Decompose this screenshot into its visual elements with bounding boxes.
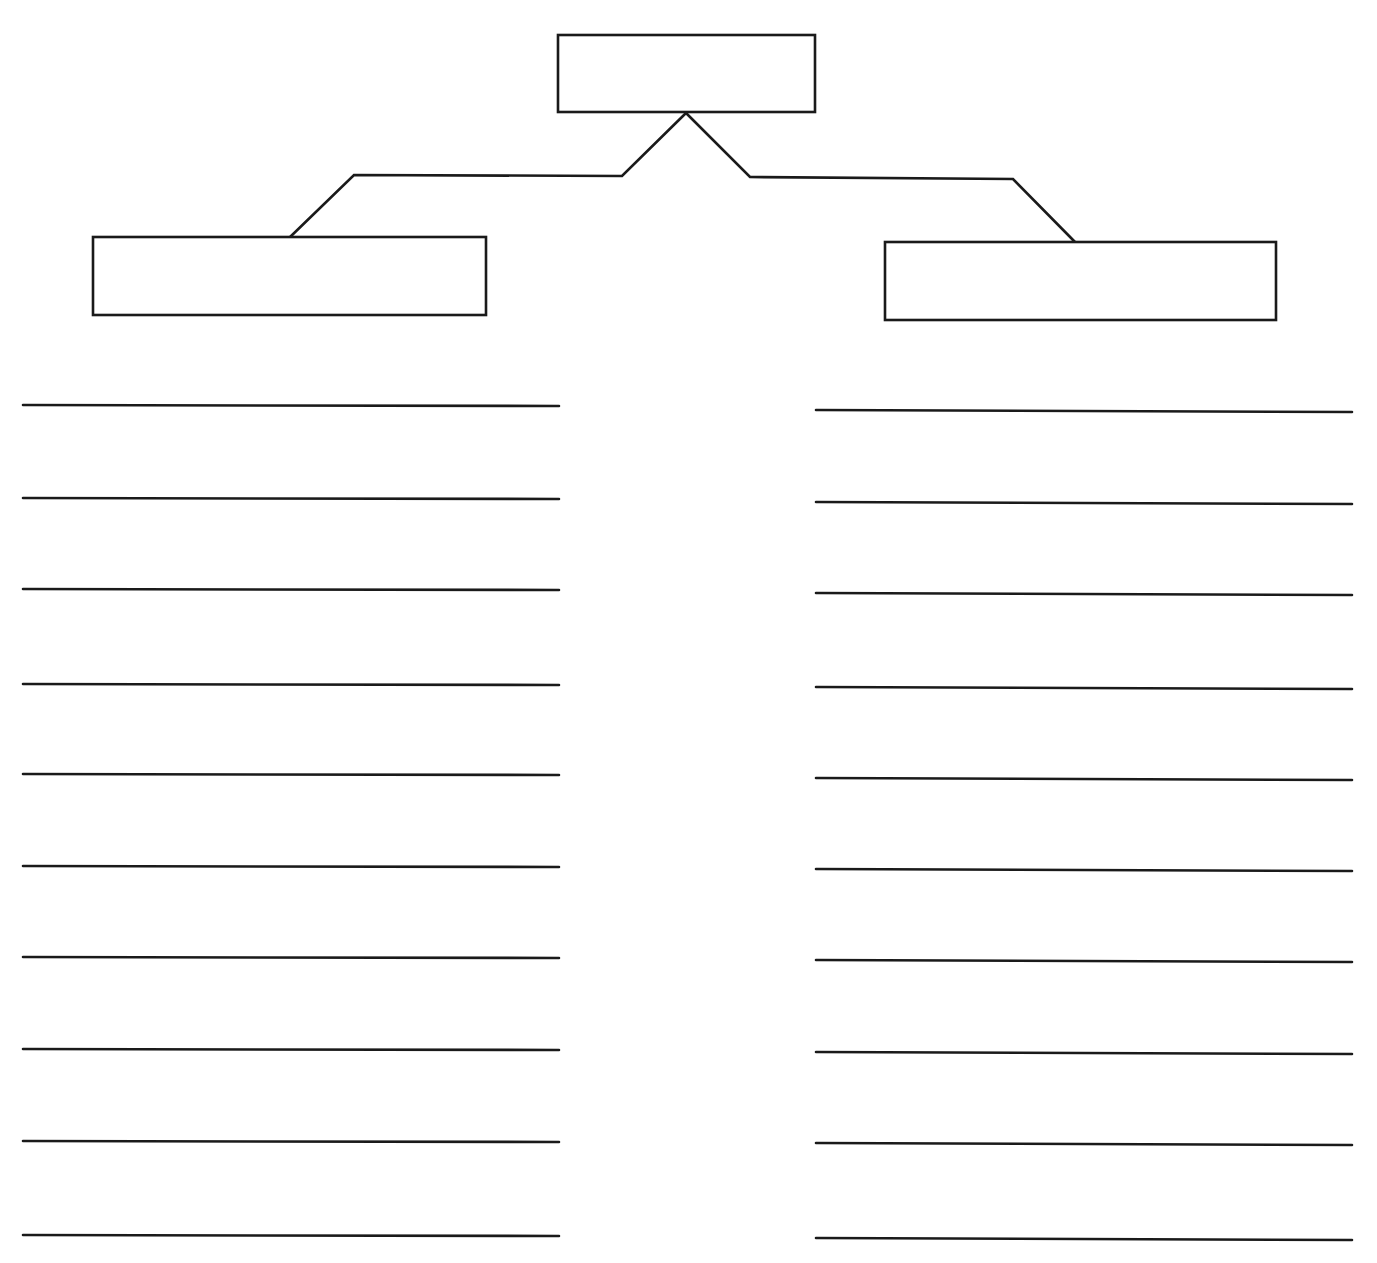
left-box-frame bbox=[93, 237, 486, 315]
left-connector bbox=[288, 113, 686, 239]
right-writing-line-1[interactable] bbox=[816, 410, 1352, 412]
right-writing-line-5[interactable] bbox=[816, 778, 1352, 780]
right-writing-line-4[interactable] bbox=[816, 687, 1352, 689]
root-box[interactable] bbox=[558, 35, 815, 112]
right-writing-line-9[interactable] bbox=[816, 1143, 1352, 1145]
left-writing-line-7[interactable] bbox=[23, 957, 559, 958]
left-writing-line-8[interactable] bbox=[23, 1049, 559, 1050]
root-box-frame bbox=[558, 35, 815, 112]
left-writing-line-6[interactable] bbox=[23, 866, 559, 867]
left-writing-line-2[interactable] bbox=[23, 498, 559, 499]
right-writing-line-8[interactable] bbox=[816, 1052, 1352, 1054]
connectors bbox=[288, 113, 1076, 243]
left-writing-line-1[interactable] bbox=[23, 405, 559, 406]
right-writing-line-6[interactable] bbox=[816, 869, 1352, 871]
right-writing-line-3[interactable] bbox=[816, 593, 1352, 595]
left-writing-line-9[interactable] bbox=[23, 1141, 559, 1142]
boxes bbox=[93, 35, 1276, 320]
left-writing-line-3[interactable] bbox=[23, 589, 559, 590]
right-connector bbox=[686, 113, 1076, 243]
right-box-frame bbox=[885, 242, 1276, 320]
left-writing-line-4[interactable] bbox=[23, 684, 559, 685]
left-writing-line-5[interactable] bbox=[23, 774, 559, 775]
writing-lines bbox=[23, 405, 1352, 1240]
right-writing-line-2[interactable] bbox=[816, 502, 1352, 504]
tree-diagram bbox=[0, 0, 1377, 1263]
left-box[interactable] bbox=[93, 237, 486, 315]
right-box[interactable] bbox=[885, 242, 1276, 320]
right-writing-line-7[interactable] bbox=[816, 960, 1352, 962]
left-writing-line-10[interactable] bbox=[23, 1235, 559, 1236]
right-writing-line-10[interactable] bbox=[816, 1238, 1352, 1240]
